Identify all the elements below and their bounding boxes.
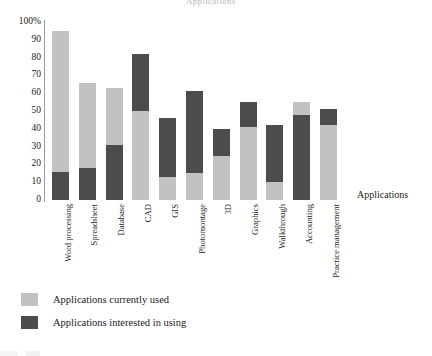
chart-legend: Applications currently usedApplications … — [21, 288, 186, 334]
bar-segment-used — [320, 125, 337, 200]
x-axis-label-gis: GIS — [171, 204, 180, 218]
bar-segment-interested — [106, 145, 123, 200]
bar-segment-used — [293, 102, 310, 114]
y-axis-tick-50: 50 — [32, 106, 42, 116]
y-axis-tick-20: 20 — [32, 160, 42, 170]
bar-segment-used — [79, 83, 96, 168]
y-axis-tick-40: 40 — [32, 124, 42, 134]
bar-segment-used — [266, 182, 283, 200]
bar-walkthrough — [266, 22, 283, 200]
y-axis-tick-70: 70 — [32, 71, 42, 81]
y-axis-tick-100: 100% — [19, 17, 41, 27]
page-edge-artifact — [0, 351, 140, 356]
legend-label-used: Applications currently used — [53, 294, 169, 305]
x-axis-label-accounting: Accounting — [305, 204, 314, 244]
x-axis-label-3d: 3D — [224, 204, 233, 215]
bar-segment-used — [132, 111, 149, 200]
bar-segment-used — [159, 177, 176, 200]
bar-database — [106, 22, 123, 200]
bar-segment-interested — [132, 54, 149, 111]
y-axis-tick-10: 10 — [32, 177, 42, 187]
bar-segment-interested — [320, 109, 337, 125]
y-axis-tick-80: 80 — [32, 53, 42, 63]
y-axis-tick-90: 90 — [32, 35, 42, 45]
x-axis-label-photomontage: Photomontage — [198, 204, 207, 254]
bar-segment-used — [213, 156, 230, 201]
bar-segment-used — [106, 88, 123, 145]
bar-segment-interested — [79, 168, 96, 200]
top-clipped-caption: Applications — [186, 0, 236, 6]
y-axis-tick-30: 30 — [32, 142, 42, 152]
legend-label-interested: Applications interested in using — [53, 317, 186, 328]
bar-gis — [159, 22, 176, 200]
x-axis-label-walkthrough: Walkthrough — [278, 204, 287, 249]
legend-swatch-used — [21, 293, 38, 306]
bar-segment-interested — [240, 102, 257, 127]
bar-segment-used — [186, 173, 203, 200]
bar-segment-used — [52, 31, 69, 172]
bar-segment-interested — [293, 115, 310, 200]
bar-segment-interested — [52, 172, 69, 200]
y-axis-tick-60: 60 — [32, 88, 42, 98]
legend-item-interested: Applications interested in using — [21, 311, 186, 334]
bar-cad — [132, 22, 149, 200]
bar-graphics — [240, 22, 257, 200]
x-axis-label-word-processing: Word processing — [64, 204, 73, 262]
chart-plot-area — [45, 22, 345, 200]
x-axis-label-database: Database — [117, 204, 126, 236]
legend-item-used: Applications currently used — [21, 288, 186, 311]
x-axis-label-spreadsheet: Spreadsheet — [90, 204, 99, 246]
bar-segment-interested — [159, 118, 176, 177]
bar-accounting — [293, 22, 310, 200]
bar-word-processing — [52, 22, 69, 200]
bar-photomontage — [186, 22, 203, 200]
bar-practice-management — [320, 22, 337, 200]
bar-spreadsheet — [79, 22, 96, 200]
bar-segment-used — [240, 127, 257, 200]
bar-segment-interested — [266, 125, 283, 182]
x-axis-label-cad: CAD — [144, 204, 153, 222]
bar-segment-interested — [186, 91, 203, 173]
y-axis-tick-0: 0 — [36, 195, 41, 205]
x-axis-label-practice-management: Practice management — [332, 204, 341, 278]
x-axis-title: Applications — [357, 189, 408, 200]
legend-swatch-interested — [21, 316, 38, 329]
bar-3d — [213, 22, 230, 200]
bar-segment-interested — [213, 129, 230, 156]
x-axis-label-graphics: Graphics — [251, 204, 260, 235]
